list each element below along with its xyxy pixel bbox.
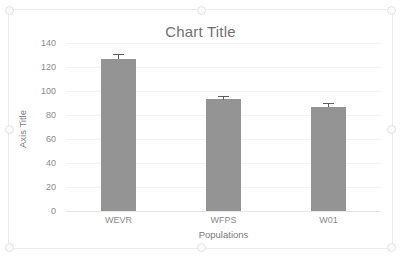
x-tick-label: W01 <box>276 215 381 225</box>
y-tick-label: 140 <box>41 38 56 48</box>
bar[interactable] <box>311 107 346 211</box>
y-tick-label: 40 <box>46 158 56 168</box>
error-bar-cap-top <box>323 103 334 104</box>
chart-title[interactable]: Chart Title <box>9 23 392 40</box>
x-tick-label: WFPS <box>171 215 276 225</box>
y-tick-label: 120 <box>41 62 56 72</box>
y-tick-label: 80 <box>46 110 56 120</box>
resize-handle-middle-left[interactable] <box>5 125 14 134</box>
bar-group[interactable]: WFPS <box>171 43 276 211</box>
resize-handle-top-right[interactable] <box>387 6 396 15</box>
bar[interactable] <box>206 99 241 211</box>
resize-handle-bottom-left[interactable] <box>5 243 14 252</box>
y-tick-label: 60 <box>46 134 56 144</box>
resize-handle-top-left[interactable] <box>5 6 14 15</box>
axis-baseline <box>66 211 381 212</box>
chart-object[interactable]: Chart Title Axis Title 02040608010012014… <box>8 9 393 249</box>
y-tick-label: 100 <box>41 86 56 96</box>
x-tick-label: WEVR <box>66 215 171 225</box>
resize-handle-middle-right[interactable] <box>387 125 396 134</box>
error-bar-cap-top <box>218 96 229 97</box>
resize-handle-bottom-right[interactable] <box>387 243 396 252</box>
resize-handle-top-middle[interactable] <box>197 6 206 15</box>
plot-area[interactable]: WEVRWFPSW01 <box>66 43 381 211</box>
y-tick-label: 20 <box>46 182 56 192</box>
bar-group[interactable]: WEVR <box>66 43 171 211</box>
y-axis-tick-labels[interactable]: 020406080100120140 <box>9 43 62 211</box>
bar[interactable] <box>101 59 136 211</box>
resize-handle-bottom-middle[interactable] <box>197 243 206 252</box>
error-bar-cap-top <box>113 54 124 55</box>
x-axis-title[interactable]: Populations <box>66 229 381 240</box>
bar-group[interactable]: W01 <box>276 43 381 211</box>
y-tick-label: 0 <box>51 206 56 216</box>
